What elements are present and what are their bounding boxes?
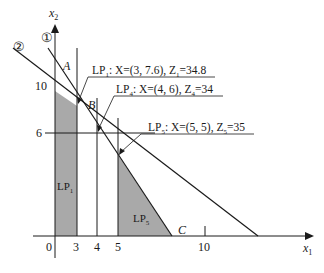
tick-label-4: 4 <box>94 240 100 254</box>
tick-label-10: 10 <box>198 240 210 254</box>
branch-and-bound-diagram: x2 x1 0 3 4 5 10 10 6 ① ② A B C LP1 LP5 … <box>0 0 324 273</box>
tick-label-y10: 10 <box>35 79 47 93</box>
point-a-label: A <box>62 59 71 73</box>
x1-axis-label: x1 <box>302 241 312 257</box>
point-b-label: B <box>88 98 96 112</box>
constraint-label-1: ① <box>41 30 53 45</box>
tick-label-3: 3 <box>73 240 79 254</box>
leader-lp1 <box>79 77 88 100</box>
leader-lp5 <box>121 134 141 152</box>
x2-axis-label: x2 <box>48 6 58 22</box>
origin-label: 0 <box>46 240 52 254</box>
constraint-label-2: ② <box>13 39 25 54</box>
x1-axis-arrow-icon <box>305 232 314 240</box>
lp1-region <box>55 91 77 236</box>
tick-label-y6: 6 <box>36 126 42 140</box>
tick-label-5: 5 <box>115 240 121 254</box>
point-c-label: C <box>178 223 187 237</box>
